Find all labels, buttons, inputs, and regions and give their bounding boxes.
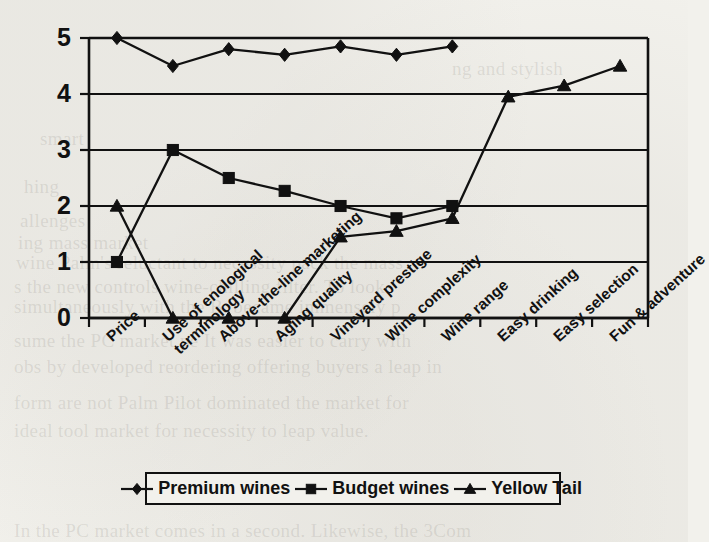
data-point-diamond <box>112 31 123 44</box>
y-axis-tick-label: 0 <box>41 305 71 330</box>
data-point-square <box>335 200 346 211</box>
data-point-triangle <box>446 212 459 224</box>
y-axis-tick-label: 2 <box>41 193 71 218</box>
legend-item-yellow-tail: Yellow Tail <box>453 478 586 499</box>
chart-legend: Premium winesBudget winesYellow Tail <box>145 472 561 505</box>
y-axis-ticks-group <box>80 38 89 318</box>
y-axis-tick-label: 4 <box>41 81 71 106</box>
y-axis-tick-label: 5 <box>41 25 71 50</box>
legend-item-premium-wines: Premium wines <box>120 478 294 499</box>
series-line <box>117 66 620 318</box>
data-point-square <box>306 484 315 493</box>
data-point-diamond <box>223 43 234 56</box>
data-point-diamond <box>335 40 346 53</box>
legend-marker-square-icon <box>294 480 328 498</box>
data-point-square <box>167 144 178 155</box>
data-point-diamond <box>447 40 458 53</box>
legend-label: Budget wines <box>328 478 453 499</box>
legend-marker-triangle-icon <box>453 480 487 498</box>
data-point-diamond <box>167 59 178 72</box>
legend-label: Yellow Tail <box>487 478 586 499</box>
data-point-diamond <box>279 48 290 61</box>
data-point-triangle <box>613 59 626 71</box>
data-series-layer <box>110 31 627 323</box>
data-point-square <box>391 213 402 224</box>
legend-item-budget-wines: Budget wines <box>294 478 453 499</box>
data-point-square <box>111 256 122 267</box>
data-point-diamond <box>391 48 402 61</box>
data-point-square <box>223 172 234 183</box>
y-axis-tick-label: 1 <box>41 249 71 274</box>
data-point-square <box>279 185 290 196</box>
data-point-diamond <box>133 483 142 494</box>
y-axis-tick-label: 3 <box>41 137 71 162</box>
legend-label: Premium wines <box>154 478 294 499</box>
legend-marker-diamond-icon <box>120 480 154 498</box>
